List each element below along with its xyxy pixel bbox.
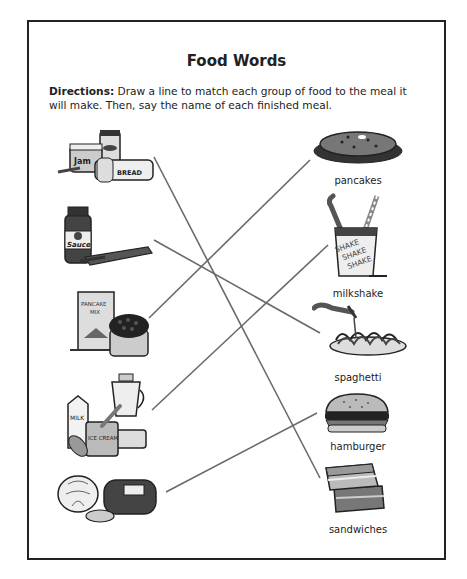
meal-label-hamburger: hamburger	[313, 441, 403, 452]
meal-label-sandwiches: sandwiches	[313, 524, 403, 535]
svg-text:MIX: MIX	[90, 309, 100, 315]
meal-label-pancakes: pancakes	[313, 175, 403, 186]
svg-text:PANCAKE: PANCAKE	[81, 301, 107, 307]
jam-jar-peanut-butter-bread-icon[interactable]: Jam BREAD	[55, 128, 155, 188]
sauce-jar-pasta-box-icon[interactable]: Sauce	[60, 205, 155, 267]
pancake-mix-box-berries-icon[interactable]: PANCAKE MIX	[70, 288, 155, 360]
svg-text:ICE CREAM: ICE CREAM	[88, 435, 119, 441]
directions-label: Directions:	[49, 85, 114, 97]
spaghetti-plate-icon[interactable]	[312, 300, 408, 358]
svg-text:Jam: Jam	[73, 157, 91, 166]
page-title: Food Words	[29, 52, 444, 70]
svg-text:BREAD: BREAD	[117, 169, 142, 177]
meal-label-milkshake: milkshake	[313, 288, 403, 299]
lettuce-meat-bun-icon[interactable]	[54, 470, 166, 525]
sandwiches-icon[interactable]	[322, 458, 388, 514]
hamburger-icon[interactable]	[322, 392, 392, 434]
directions: Directions: Draw a line to match each gr…	[49, 84, 424, 112]
meal-label-spaghetti: spaghetti	[313, 372, 403, 383]
svg-text:Sauce: Sauce	[67, 241, 91, 249]
milkshake-cup-icon[interactable]: SHAKESHAKESHAKE	[323, 192, 393, 282]
svg-text:MILK: MILK	[70, 414, 85, 421]
milk-icecream-blender-icon[interactable]: MILK ICE CREAM	[64, 370, 154, 460]
pancakes-icon[interactable]	[312, 125, 404, 165]
